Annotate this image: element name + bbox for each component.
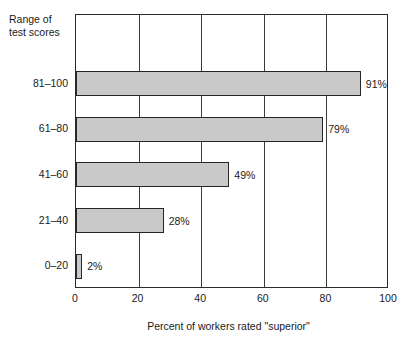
x-tick-label: 0	[72, 292, 78, 304]
x-tick-label: 20	[132, 292, 144, 304]
bar-row: 28%	[76, 208, 387, 233]
x-tick-label: 40	[194, 292, 206, 304]
bar-row: 91%	[76, 71, 387, 96]
bar-value-label: 28%	[169, 215, 190, 227]
category-label: 0–20	[2, 259, 68, 271]
bar: 91%	[76, 71, 361, 96]
x-tick-label: 100	[379, 292, 397, 304]
bar: 49%	[76, 162, 229, 187]
x-axis-title: Percent of workers rated "superior"	[0, 320, 419, 332]
bar-value-label: 49%	[234, 169, 255, 181]
bar-value-label: 2%	[87, 260, 102, 272]
plot-area: 91%79%49%28%2%	[75, 14, 388, 288]
bar-chart: Range of test scores 91%79%49%28%2% 81–1…	[0, 0, 419, 346]
x-axis-tick-labels: 020406080100	[75, 292, 388, 308]
bar: 28%	[76, 208, 164, 233]
bar-value-label: 91%	[366, 78, 387, 90]
bar-row: 79%	[76, 117, 387, 142]
bar-row: 2%	[76, 254, 387, 279]
bar-value-label: 79%	[328, 123, 349, 135]
y-axis-tick-labels: 81–10061–8041–6021–400–20	[0, 14, 68, 288]
x-axis-title-text: Percent of workers rated "superior"	[109, 320, 310, 332]
bar-row: 49%	[76, 162, 387, 187]
category-label: 81–100	[2, 77, 68, 89]
x-tick-label: 60	[257, 292, 269, 304]
category-label: 61–80	[2, 122, 68, 134]
category-label: 41–60	[2, 168, 68, 180]
bar: 2%	[76, 254, 82, 279]
x-tick-label: 80	[320, 292, 332, 304]
bars-layer: 91%79%49%28%2%	[76, 15, 387, 287]
bar: 79%	[76, 117, 323, 142]
category-label: 21–40	[2, 214, 68, 226]
